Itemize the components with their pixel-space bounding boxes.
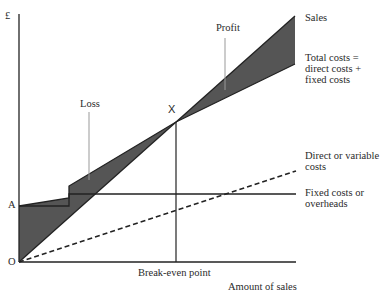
profit-label: Profit	[216, 22, 240, 33]
point-a-label: A	[8, 199, 16, 210]
sales-line	[19, 16, 295, 262]
loss-label: Loss	[80, 98, 100, 109]
y-axis-label: £	[5, 10, 10, 21]
breakeven-marker: X	[168, 104, 175, 115]
sales-label: Sales	[305, 12, 327, 23]
x-axis-label: Amount of sales	[228, 281, 297, 292]
breakeven-label: Break-even point	[138, 267, 211, 278]
break-even-chart	[0, 0, 387, 295]
total-costs-label: Total costs = direct costs + fixed costs	[305, 52, 361, 85]
variable-costs-label: Direct or variable costs	[305, 150, 379, 172]
fixed-costs-label: Fixed costs or overheads	[305, 187, 364, 209]
origin-label: O	[8, 256, 16, 267]
